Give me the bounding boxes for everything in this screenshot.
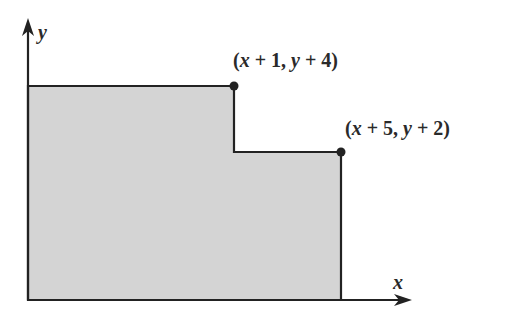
point-marker-1 [230,82,239,91]
point-marker-2 [337,148,346,157]
step-region-diagram: y x (x + 1, y + 4) (x + 5, y + 2) [0,0,510,334]
point-label-1: (x + 1, y + 4) [233,49,338,72]
x-axis-label: x [392,271,403,293]
y-axis-label: y [36,21,47,44]
shaded-region [28,86,341,300]
point-label-2: (x + 5, y + 2) [345,117,450,140]
